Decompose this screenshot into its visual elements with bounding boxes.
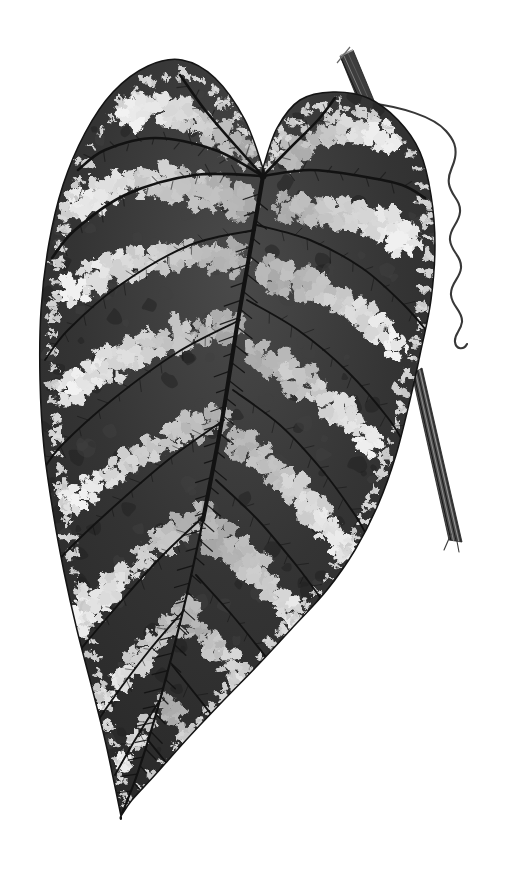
botanical-plate (0, 0, 524, 869)
leaf-illustration (0, 0, 524, 869)
